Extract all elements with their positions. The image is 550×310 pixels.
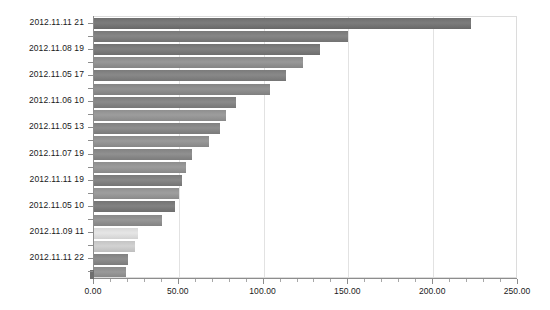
bar[interactable] bbox=[94, 18, 471, 29]
y-axis-label: 2012.11.07 19 bbox=[29, 148, 84, 158]
y-axis-label: 2012.11.11 21 bbox=[30, 17, 84, 27]
y-axis-tick bbox=[88, 206, 93, 207]
bar-fill bbox=[94, 31, 348, 42]
x-axis-tick-major bbox=[263, 279, 264, 284]
bar-fill bbox=[94, 123, 220, 134]
x-axis-tick-minor bbox=[364, 279, 365, 282]
bar[interactable] bbox=[94, 241, 135, 252]
y-axis-tick bbox=[88, 154, 93, 155]
y-axis-tick bbox=[88, 219, 93, 220]
y-axis-tick bbox=[88, 258, 93, 259]
x-axis-tick-minor bbox=[398, 279, 399, 282]
x-axis-tick-minor bbox=[144, 279, 145, 282]
bar[interactable] bbox=[94, 175, 182, 186]
x-axis-tick-major bbox=[178, 279, 179, 284]
x-axis-tick-minor bbox=[297, 279, 298, 282]
x-axis-tick-minor bbox=[381, 279, 382, 282]
y-axis-tick bbox=[88, 101, 93, 102]
x-axis-tick-minor bbox=[161, 279, 162, 282]
bar[interactable] bbox=[94, 215, 162, 226]
x-axis-tick-minor bbox=[483, 279, 484, 282]
bar[interactable] bbox=[94, 123, 220, 134]
y-axis-label: 2012.11.05 17 bbox=[29, 69, 84, 79]
bar[interactable] bbox=[94, 110, 226, 121]
y-axis-tick bbox=[88, 232, 93, 233]
x-axis-tick-minor bbox=[280, 279, 281, 282]
bar-fill bbox=[94, 70, 286, 81]
y-axis-tick bbox=[88, 36, 93, 37]
y-axis-tick bbox=[88, 49, 93, 50]
y-axis-tick bbox=[88, 140, 93, 141]
bar-fill bbox=[94, 228, 138, 239]
x-axis-label: 100.00 bbox=[249, 286, 276, 296]
y-axis-label: 2012.11.09 11 bbox=[30, 226, 84, 236]
y-axis-tick bbox=[88, 75, 93, 76]
bar-fill bbox=[94, 254, 128, 265]
bar[interactable] bbox=[94, 44, 320, 55]
bar-fill bbox=[94, 188, 179, 199]
y-axis-tick bbox=[88, 193, 93, 194]
bar[interactable] bbox=[94, 136, 209, 147]
bar-fill bbox=[94, 175, 182, 186]
bar-fill bbox=[94, 110, 226, 121]
bar[interactable] bbox=[94, 57, 303, 68]
plot-area bbox=[93, 16, 517, 278]
x-axis-label: 200.00 bbox=[419, 286, 446, 296]
bar[interactable] bbox=[94, 228, 138, 239]
y-axis-label: 2012.11.11 19 bbox=[30, 174, 84, 184]
bars-layer bbox=[94, 17, 516, 277]
bar-fill bbox=[94, 267, 126, 278]
bar-chart: 2012.11.11 212012.11.08 192012.11.05 172… bbox=[0, 0, 550, 310]
x-axis-tick-minor bbox=[246, 279, 247, 282]
bar-fill bbox=[94, 201, 175, 212]
y-axis-tick bbox=[88, 114, 93, 115]
x-axis-tick-major bbox=[432, 279, 433, 284]
bar[interactable] bbox=[94, 254, 128, 265]
bar-fill bbox=[94, 18, 471, 29]
bar-fill bbox=[94, 44, 320, 55]
bar-fill bbox=[94, 149, 192, 160]
x-axis-tick-major bbox=[347, 279, 348, 284]
bar[interactable] bbox=[94, 267, 126, 278]
bar[interactable] bbox=[94, 97, 236, 108]
y-axis-label: 2012.11.08 19 bbox=[29, 43, 84, 53]
y-axis-tick bbox=[88, 271, 93, 272]
x-axis-tick-minor bbox=[500, 279, 501, 282]
y-axis-tick bbox=[88, 62, 93, 63]
bar-fill bbox=[94, 84, 270, 95]
x-axis-tick-major bbox=[93, 279, 94, 284]
y-axis-tick bbox=[88, 88, 93, 89]
y-axis-tick bbox=[88, 180, 93, 181]
bar[interactable] bbox=[94, 162, 186, 173]
y-axis-label: 2012.11.05 13 bbox=[29, 121, 84, 131]
bar[interactable] bbox=[94, 188, 179, 199]
x-axis-tick-minor bbox=[212, 279, 213, 282]
y-axis-label: 2012.11.05 10 bbox=[29, 200, 84, 210]
y-axis-line bbox=[93, 16, 94, 278]
x-axis-tick-minor bbox=[313, 279, 314, 282]
x-axis-tick-minor bbox=[229, 279, 230, 282]
y-axis-tick bbox=[88, 167, 93, 168]
bar[interactable] bbox=[94, 201, 175, 212]
x-axis-tick-minor bbox=[330, 279, 331, 282]
y-axis-label: 2012.11.06 10 bbox=[29, 95, 84, 105]
x-axis-tick-minor bbox=[449, 279, 450, 282]
y-axis-tick bbox=[88, 127, 93, 128]
bar[interactable] bbox=[94, 84, 270, 95]
x-axis-label: 0.00 bbox=[85, 286, 102, 296]
x-axis-label: 150.00 bbox=[334, 286, 361, 296]
x-axis-tick-major bbox=[517, 279, 518, 284]
bar-fill bbox=[94, 57, 303, 68]
x-axis-tick-minor bbox=[110, 279, 111, 282]
y-axis-tick bbox=[88, 23, 93, 24]
bar[interactable] bbox=[94, 31, 348, 42]
bar-fill bbox=[94, 162, 186, 173]
y-axis-tick bbox=[88, 245, 93, 246]
x-axis-tick-minor bbox=[415, 279, 416, 282]
bar[interactable] bbox=[94, 149, 192, 160]
x-axis-tick-minor bbox=[466, 279, 467, 282]
x-axis-label: 50.00 bbox=[167, 286, 189, 296]
x-axis-line bbox=[93, 278, 517, 279]
bar[interactable] bbox=[94, 70, 286, 81]
x-axis-tick-minor bbox=[127, 279, 128, 282]
